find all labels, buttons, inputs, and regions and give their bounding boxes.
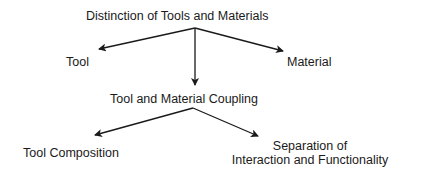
node-separation-line2: Interaction and Functionality xyxy=(220,153,400,167)
node-coupling: Tool and Material Coupling xyxy=(110,92,258,106)
edge-root-to-material xyxy=(195,28,283,51)
edge-root-to-tool xyxy=(99,28,195,49)
edge-coupling-to-separation xyxy=(193,108,258,136)
node-separation: Separation of Interaction and Functional… xyxy=(220,139,400,167)
node-tool: Tool xyxy=(66,55,89,69)
node-composition: Tool Composition xyxy=(23,146,119,160)
node-root: Distinction of Tools and Materials xyxy=(86,9,269,23)
node-separation-line1: Separation of xyxy=(220,139,400,153)
node-material: Material xyxy=(287,55,331,69)
edge-coupling-to-composition xyxy=(95,108,193,135)
concept-diagram: Distinction of Tools and Materials Tool … xyxy=(0,0,428,170)
